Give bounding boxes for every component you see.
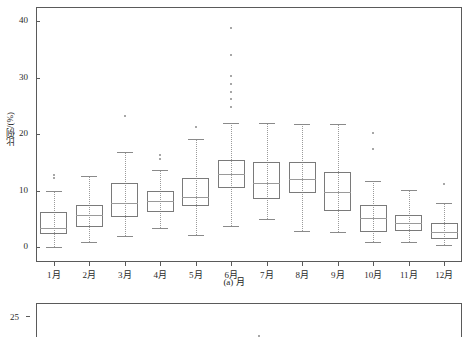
whisker-cap-upper bbox=[330, 124, 346, 125]
box-iqr bbox=[40, 212, 67, 234]
y-tick-label: 30 bbox=[6, 72, 28, 82]
x-tick-mark bbox=[373, 262, 374, 266]
whisker-cap-lower bbox=[330, 232, 346, 233]
figure-caption: (a) 月 bbox=[0, 275, 468, 288]
whisker-cap-upper bbox=[81, 176, 97, 177]
median-line bbox=[253, 183, 280, 184]
whisker-cap-lower bbox=[46, 247, 62, 248]
y-tick-mark bbox=[36, 78, 40, 79]
median-line bbox=[289, 179, 316, 180]
y-tick-mark bbox=[36, 191, 40, 192]
whisker-cap-lower bbox=[188, 235, 204, 236]
whisker-cap-lower bbox=[259, 219, 275, 220]
whisker-cap-upper bbox=[365, 181, 381, 182]
x-tick-mark bbox=[231, 262, 232, 266]
y-tick-label-25: 25 bbox=[10, 312, 19, 322]
whisker-cap-lower bbox=[294, 231, 310, 232]
outlier-point bbox=[53, 177, 55, 179]
median-line bbox=[182, 197, 209, 198]
whisker-cap-lower bbox=[436, 245, 452, 246]
box-iqr bbox=[253, 162, 280, 199]
x-tick-mark bbox=[89, 262, 90, 266]
whisker-cap-upper bbox=[188, 139, 204, 140]
median-line bbox=[76, 215, 103, 216]
x-tick-mark bbox=[54, 262, 55, 266]
outlier-point bbox=[53, 174, 55, 176]
x-tick-mark bbox=[409, 262, 410, 266]
y-tick-mark bbox=[36, 134, 40, 135]
median-line bbox=[218, 174, 245, 175]
median-line bbox=[395, 223, 422, 224]
whisker-cap-upper bbox=[294, 124, 310, 125]
figure-a-boxplot-chart: 比例/(%) 010203040 1月2月3月4月5月6月7月8月9月10月11… bbox=[0, 0, 468, 295]
figure-b-partial-chart: 25 bbox=[0, 295, 468, 337]
whisker-cap-upper bbox=[223, 123, 239, 124]
whisker-cap-lower bbox=[152, 228, 168, 229]
x-tick-mark bbox=[338, 262, 339, 266]
whisker-cap-upper bbox=[117, 152, 133, 153]
y-tick-mark-b bbox=[26, 316, 30, 317]
x-tick-mark bbox=[196, 262, 197, 266]
median-line bbox=[147, 201, 174, 202]
y-tick-label: 0 bbox=[6, 241, 28, 251]
median-line bbox=[324, 192, 351, 193]
y-tick-mark bbox=[36, 247, 40, 248]
box-iqr bbox=[431, 223, 458, 239]
median-line bbox=[431, 232, 458, 233]
x-tick-mark bbox=[267, 262, 268, 266]
whisker-cap-lower bbox=[401, 242, 417, 243]
box-iqr bbox=[182, 178, 209, 206]
x-tick-mark bbox=[160, 262, 161, 266]
y-tick-mark bbox=[36, 21, 40, 22]
median-line bbox=[40, 228, 67, 229]
box-iqr bbox=[111, 183, 138, 217]
x-tick-mark bbox=[444, 262, 445, 266]
whisker-cap-upper bbox=[401, 190, 417, 191]
whisker-cap-upper bbox=[152, 170, 168, 171]
whisker-cap-lower bbox=[81, 242, 97, 243]
median-line bbox=[360, 218, 387, 219]
outlier-point bbox=[230, 91, 232, 93]
y-tick-label: 40 bbox=[6, 15, 28, 25]
x-tick-mark bbox=[125, 262, 126, 266]
y-tick-label: 10 bbox=[6, 185, 28, 195]
whisker-cap-upper bbox=[46, 191, 62, 192]
whisker-cap-upper bbox=[259, 123, 275, 124]
x-tick-mark bbox=[302, 262, 303, 266]
outlier-point bbox=[124, 115, 126, 117]
whisker-cap-upper bbox=[436, 203, 452, 204]
y-tick-label: 20 bbox=[6, 128, 28, 138]
plot-area-b bbox=[36, 303, 462, 337]
whisker-cap-lower bbox=[117, 236, 133, 237]
whisker-cap-lower bbox=[223, 226, 239, 227]
whisker-cap-lower bbox=[365, 242, 381, 243]
median-line bbox=[111, 203, 138, 204]
